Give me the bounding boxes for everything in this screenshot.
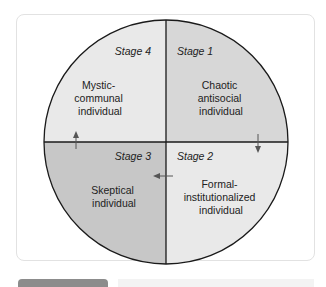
stage-label-4: Stage 4 (115, 45, 151, 57)
caption-bar (118, 279, 314, 287)
stage-label-2: Stage 2 (177, 150, 213, 162)
quadrant-label-4: Mystic- communal individual (74, 79, 125, 117)
stage-label-3: Stage 3 (115, 150, 151, 162)
quadrant-label-3: Skeptical individual (91, 184, 137, 209)
caption-tab (18, 279, 108, 287)
quadrant-label-1: Chaotic antisocial individual (198, 79, 245, 117)
stage-label-1: Stage 1 (177, 45, 213, 57)
